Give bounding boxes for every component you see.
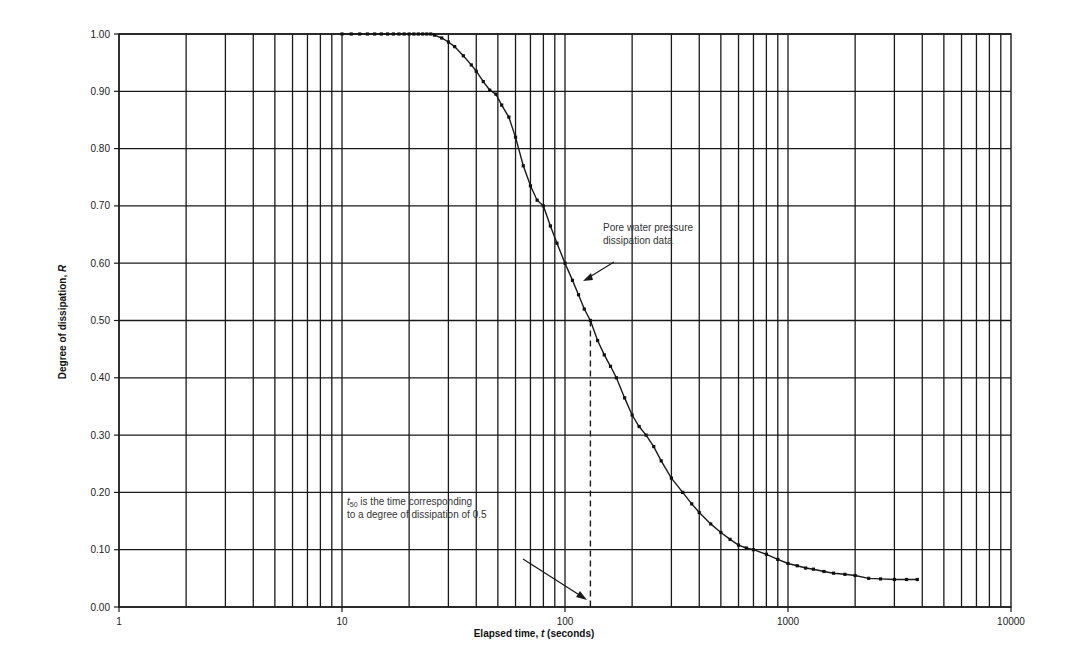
x-tick-label: 1 [116, 616, 122, 627]
data-point-marker [470, 63, 473, 66]
data-point-marker [719, 531, 722, 534]
data-point-marker [542, 204, 545, 207]
data-point-marker [453, 45, 456, 48]
y-tick-label: 0.10 [91, 544, 111, 555]
data-point-marker [670, 476, 673, 479]
data-point-marker [796, 564, 799, 567]
y-tick-label: 0.40 [91, 372, 111, 383]
annotation-pore-water-line1: Pore water pressure [603, 222, 693, 233]
y-axis-ticks: 0.000.100.200.300.400.500.600.700.800.90… [91, 29, 119, 613]
data-point-marker [609, 365, 612, 368]
data-point-marker [397, 32, 400, 35]
data-point-marker [652, 445, 655, 448]
data-point-marker [698, 511, 701, 514]
data-point-marker [571, 279, 574, 282]
data-point-marker [905, 578, 908, 581]
data-point-marker [366, 32, 369, 35]
data-point-marker [854, 574, 857, 577]
data-point-marker [589, 319, 592, 322]
y-tick-label: 0.50 [91, 315, 111, 326]
data-point-marker [482, 80, 485, 83]
data-point-marker [631, 413, 634, 416]
data-point-marker [392, 32, 395, 35]
data-point-marker [843, 573, 846, 576]
arrow-to-t50 [523, 559, 581, 596]
x-tick-label: 10 [336, 616, 348, 627]
arrowhead-to-data-icon [583, 273, 593, 281]
data-point-marker [380, 32, 383, 35]
annotation-pore-water-line2: dissipation data [603, 235, 673, 246]
data-point-marker [623, 396, 626, 399]
data-point-marker [386, 32, 389, 35]
data-point-marker [408, 32, 411, 35]
y-tick-label: 0.80 [91, 143, 111, 154]
annotation-t50-line1: t50 is the time corresponding [347, 496, 472, 508]
data-point-marker [832, 572, 835, 575]
data-point-marker [536, 199, 539, 202]
data-point-marker [745, 546, 748, 549]
y-tick-label: 0.20 [91, 487, 111, 498]
data-point-marker [403, 32, 406, 35]
y-tick-label: 0.60 [91, 258, 111, 269]
data-point-marker [358, 32, 361, 35]
data-point-marker [340, 32, 343, 35]
data-point-marker [563, 262, 566, 265]
data-point-marker [577, 293, 580, 296]
y-tick-label: 0.70 [91, 200, 111, 211]
data-point-marker [514, 136, 517, 139]
data-point-marker [555, 242, 558, 245]
data-point-marker [603, 353, 606, 356]
data-point-marker [583, 307, 586, 310]
y-tick-label: 0.90 [91, 86, 111, 97]
data-point-marker [690, 502, 693, 505]
data-point-marker [681, 491, 684, 494]
data-point-marker [660, 459, 663, 462]
arrowhead-to-t50-icon [576, 591, 587, 600]
y-tick-label: 1.00 [91, 29, 111, 40]
data-point-marker [421, 32, 424, 35]
data-point-marker [786, 562, 789, 565]
data-point-marker [615, 376, 618, 379]
x-tick-label: 1000 [777, 616, 800, 627]
y-tick-label: 0.00 [91, 602, 111, 613]
annotation-t50-line2: to a degree of dissipation of 0.5 [347, 509, 487, 520]
data-point-marker [433, 34, 436, 37]
data-point-marker [500, 103, 503, 106]
x-axis-ticks: 110100100010000 [116, 607, 1025, 627]
data-point-marker [804, 566, 807, 569]
data-point-marker [475, 70, 478, 73]
data-point-marker [916, 578, 919, 581]
arrow-to-data [588, 262, 614, 278]
data-point-marker [494, 93, 497, 96]
data-point-marker [412, 32, 415, 35]
data-point-marker [776, 558, 779, 561]
data-point-marker [752, 548, 755, 551]
data-point-marker [812, 568, 815, 571]
data-point-marker [488, 89, 491, 92]
data-point-marker [709, 522, 712, 525]
data-point-marker [893, 578, 896, 581]
data-point-marker [638, 425, 641, 428]
y-tick-label: 0.30 [91, 430, 111, 441]
data-point-marker [447, 40, 450, 43]
data-point-marker [429, 32, 432, 35]
data-point-marker [507, 115, 510, 118]
x-tick-label: 100 [557, 616, 574, 627]
data-point-marker [765, 553, 768, 556]
x-axis-title: Elapsed time, t (seconds) [474, 628, 595, 639]
data-point-marker [737, 544, 740, 547]
data-point-marker [350, 32, 353, 35]
data-point-marker [729, 538, 732, 541]
data-point-marker [417, 32, 420, 35]
data-point-marker [867, 577, 870, 580]
data-point-marker [373, 32, 376, 35]
data-point-marker [522, 164, 525, 167]
dissipation-chart: 0.000.100.200.300.400.500.600.700.800.90… [0, 0, 1071, 672]
data-point-marker [644, 434, 647, 437]
annotations: Pore water pressure dissipation data t50… [347, 222, 693, 600]
data-point-marker [425, 32, 428, 35]
data-point-marker [440, 36, 443, 39]
x-tick-label: 10000 [997, 616, 1025, 627]
data-point-marker [529, 184, 532, 187]
data-point-marker [822, 570, 825, 573]
